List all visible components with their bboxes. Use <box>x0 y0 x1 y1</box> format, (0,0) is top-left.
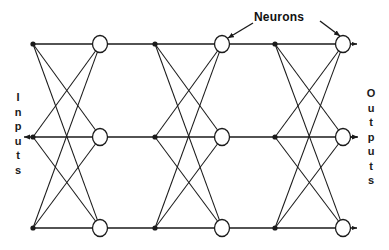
edge-c1-from2-to0 <box>155 52 219 228</box>
inputs-letter-4: t <box>11 148 25 163</box>
layer-horizontal-lines-group <box>33 44 357 228</box>
connection-edges-group <box>33 44 340 228</box>
edge-c0-from2-to0 <box>33 52 97 228</box>
junction-dot-c2-r0[interactable] <box>272 41 277 46</box>
neuron-c0-r0[interactable] <box>93 36 108 53</box>
edge-c2-from0-to1 <box>275 44 338 130</box>
edge-c0-from0-to1 <box>33 44 96 130</box>
outputs-letter-3: p <box>364 130 378 145</box>
outputs-letter-5: t <box>364 159 378 174</box>
network-canvas <box>0 0 389 250</box>
inputs-letter-2: p <box>11 119 25 134</box>
edge-c0-from1-to0 <box>33 51 96 137</box>
neuron-c0-r2[interactable] <box>93 220 108 237</box>
neuron-c1-r2[interactable] <box>215 220 230 237</box>
junction-dot-c0-r0[interactable] <box>30 41 35 46</box>
neuron-nodes-group <box>93 36 351 237</box>
outputs-letter-6: s <box>364 173 378 188</box>
junction-dot-c0-r2[interactable] <box>30 225 35 230</box>
neurons-arrow-left <box>228 23 253 38</box>
neuron-c1-r1[interactable] <box>215 129 230 146</box>
edge-c1-from2-to1 <box>155 144 217 228</box>
edge-c0-from0-to2 <box>33 44 97 220</box>
neuron-c0-r1[interactable] <box>93 129 108 146</box>
outputs-letter-4: u <box>364 144 378 159</box>
edge-c0-from2-to1 <box>33 144 95 228</box>
junction-dot-c1-r2[interactable] <box>152 225 157 230</box>
inputs-label: I n p u t s <box>11 90 25 177</box>
edge-c1-from1-to0 <box>155 51 218 137</box>
neuron-c2-r0[interactable] <box>336 36 351 53</box>
edge-c0-from1-to2 <box>33 137 95 221</box>
edge-c2-from1-to2 <box>275 137 338 221</box>
inputs-letter-3: u <box>11 134 25 149</box>
junction-dots-group <box>30 41 277 230</box>
neurons-arrow-right <box>320 21 340 36</box>
junction-dot-c1-r0[interactable] <box>152 41 157 46</box>
outputs-label: O u t p u t s <box>364 86 378 188</box>
outputs-letter-2: t <box>364 115 378 130</box>
neuron-c2-r2[interactable] <box>336 220 351 237</box>
neuron-c2-r1[interactable] <box>336 129 351 146</box>
edge-c2-from1-to0 <box>275 51 338 137</box>
edge-c2-from2-to1 <box>275 144 338 228</box>
junction-dot-c2-r2[interactable] <box>272 225 277 230</box>
neural-network-figure: Neurons I n p u t s O u t p u t s <box>0 0 389 250</box>
junction-dot-c2-r1[interactable] <box>272 134 277 139</box>
edge-c2-from0-to2 <box>275 44 340 220</box>
outputs-letter-0: O <box>364 86 378 101</box>
inputs-letter-0: I <box>11 90 25 105</box>
edge-c1-from1-to2 <box>155 137 217 221</box>
inputs-letter-1: n <box>11 105 25 120</box>
neurons-label: Neurons <box>254 10 304 24</box>
edge-c2-from2-to0 <box>275 52 340 228</box>
edge-c1-from0-to1 <box>155 44 218 130</box>
edge-c1-from0-to2 <box>155 44 219 220</box>
outputs-letter-1: u <box>364 101 378 116</box>
neuron-c1-r0[interactable] <box>215 36 230 53</box>
inputs-letter-5: s <box>11 163 25 178</box>
junction-dot-c0-r1[interactable] <box>30 134 35 139</box>
junction-dot-c1-r1[interactable] <box>152 134 157 139</box>
callout-arrows-group <box>24 21 358 137</box>
